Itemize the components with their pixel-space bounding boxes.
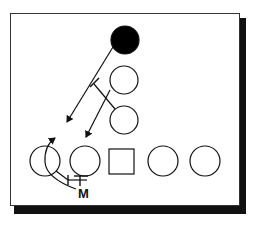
defender-filled-circle xyxy=(111,26,139,54)
lineman1-block-line xyxy=(56,171,68,180)
lineman-4-circle xyxy=(148,146,178,176)
offense-middle-circle xyxy=(110,106,138,134)
offense-upper-circle xyxy=(110,66,138,94)
defender-route-arrow xyxy=(67,47,113,122)
lineman-5-circle xyxy=(190,146,220,176)
upper-route-arrow xyxy=(86,90,110,137)
m-label: M xyxy=(78,186,88,201)
play-diagram xyxy=(0,0,257,226)
lineman-2-circle xyxy=(70,146,100,176)
center-square xyxy=(109,149,134,174)
m-curved-route-arrow xyxy=(45,138,76,189)
